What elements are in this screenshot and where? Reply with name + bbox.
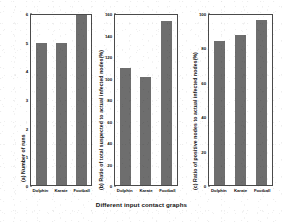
chart-panel-a: (a) Number of runs 0123456 DolphinKarate… bbox=[0, 0, 96, 222]
panel-c-ytick-label: 100 bbox=[199, 12, 206, 17]
panel-a-category-labels: DolphinKarateFootball bbox=[30, 188, 92, 198]
panel-c-ytick-label: 0 bbox=[204, 184, 206, 189]
panel-a-ytick-label: 6 bbox=[26, 12, 28, 17]
category-label-karate: Karate bbox=[230, 188, 252, 198]
bar-football bbox=[161, 21, 172, 185]
bar-chart-figure: (a) Number of runs 0123456 DolphinKarate… bbox=[0, 0, 283, 222]
bar-slot bbox=[72, 15, 90, 185]
bar-dolphin bbox=[214, 41, 225, 186]
bar-karate bbox=[235, 35, 246, 185]
panel-b-ytick-label: 120 bbox=[105, 55, 112, 60]
chart-panel-b: (b) Ratio of total suspected to actual i… bbox=[92, 0, 188, 222]
panel-b-ytick-label: 100 bbox=[105, 76, 112, 81]
panel-b-ytick-label: 60 bbox=[107, 119, 112, 124]
category-label-football: Football bbox=[71, 188, 92, 198]
x-axis-title: Different input contact graphs bbox=[0, 201, 283, 208]
panel-a-ytick-label: 5 bbox=[26, 40, 28, 45]
panel-a-ytick-label: 2 bbox=[26, 126, 28, 131]
bar-dolphin bbox=[120, 68, 131, 185]
bar-slot bbox=[116, 15, 135, 185]
chart-panel-c: (c) Ratio of positive nodes to actual in… bbox=[184, 0, 283, 222]
bar-dolphin bbox=[36, 43, 47, 185]
bar-slot bbox=[52, 15, 70, 185]
panel-b-bars bbox=[115, 15, 177, 185]
bar-slot bbox=[231, 15, 250, 185]
panel-c-y-ticks: 020406080100 bbox=[192, 14, 208, 186]
panel-b-ytick-label: 40 bbox=[107, 141, 112, 146]
bar-football bbox=[256, 20, 267, 185]
category-label-dolphin: Dolphin bbox=[30, 188, 51, 198]
bar-karate bbox=[140, 77, 151, 185]
bar-slot bbox=[32, 15, 50, 185]
category-label-football: Football bbox=[251, 188, 273, 198]
category-label-football: Football bbox=[157, 188, 178, 198]
panel-a-ytick-label: 1 bbox=[26, 155, 28, 160]
panel-a-ytick-label: 4 bbox=[26, 69, 28, 74]
bar-slot bbox=[157, 15, 176, 185]
panel-b-ytick-label: 0 bbox=[110, 184, 112, 189]
bar-football bbox=[76, 15, 87, 185]
category-label-dolphin: Dolphin bbox=[114, 188, 135, 198]
panel-c-ytick-label: 60 bbox=[201, 80, 206, 85]
bar-slot bbox=[210, 15, 229, 185]
panel-a-bars bbox=[31, 15, 91, 185]
category-label-karate: Karate bbox=[135, 188, 156, 198]
panel-c-ytick-label: 80 bbox=[201, 46, 206, 51]
panel-b-ytick-label: 80 bbox=[107, 98, 112, 103]
panel-c-ytick-label: 20 bbox=[201, 149, 206, 154]
panel-b-ytick-label: 140 bbox=[105, 33, 112, 38]
panel-a-ytick-label: 3 bbox=[26, 98, 28, 103]
panel-c-category-labels: DolphinKarateFootball bbox=[208, 188, 273, 198]
panel-c-ytick-label: 40 bbox=[201, 115, 206, 120]
bar-slot bbox=[252, 15, 271, 185]
panel-b-y-ticks: 020406080100120140160 bbox=[98, 14, 114, 186]
panel-c-plot-area bbox=[208, 14, 273, 186]
panel-a-y-ticks: 0123456 bbox=[14, 14, 30, 186]
category-label-karate: Karate bbox=[51, 188, 72, 198]
bar-slot bbox=[137, 15, 156, 185]
bar-karate bbox=[56, 43, 67, 185]
panel-b-category-labels: DolphinKarateFootball bbox=[114, 188, 178, 198]
panel-b-plot-area bbox=[114, 14, 178, 186]
panel-b-ytick-label: 160 bbox=[105, 12, 112, 17]
panel-c-bars bbox=[209, 15, 272, 185]
category-label-dolphin: Dolphin bbox=[208, 188, 230, 198]
panel-a-ytick-label: 0 bbox=[26, 184, 28, 189]
panel-b-ytick-label: 20 bbox=[107, 162, 112, 167]
panel-a-plot-area bbox=[30, 14, 92, 186]
